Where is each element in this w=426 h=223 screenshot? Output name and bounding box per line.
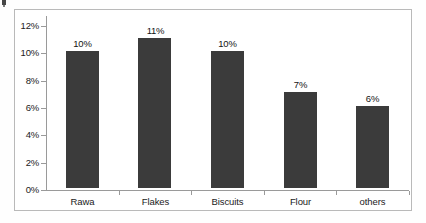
bar-value-label: 7% <box>264 80 337 90</box>
bar-value-label: 10% <box>46 39 119 49</box>
bar-flour <box>284 92 317 188</box>
screenshot-root: 0%2%4%6%8%10%12%10%Rawa11%Flakes10%Biscu… <box>0 0 426 223</box>
x-axis-tick <box>409 191 410 195</box>
bar-value-label: 6% <box>336 94 409 104</box>
y-axis-tick-label: 4% <box>15 130 39 139</box>
y-axis-tick-label: 8% <box>15 76 39 85</box>
x-axis-category-label: Rawa <box>46 196 119 207</box>
y-axis-tick-label: 10% <box>15 48 39 57</box>
bar-rawa <box>66 51 99 188</box>
x-axis-tick <box>336 191 337 195</box>
bar-flakes <box>138 38 171 188</box>
y-axis-tick-label: 6% <box>15 103 39 112</box>
y-axis-tick-label: 0% <box>15 185 39 194</box>
scan-artifact-speck-secondary <box>3 5 5 7</box>
bar-value-label: 10% <box>191 39 264 49</box>
y-axis-tick <box>41 135 46 136</box>
y-axis-tick <box>41 26 46 27</box>
y-axis-tick <box>41 53 46 54</box>
chart-frame: 0%2%4%6%8%10%12%10%Rawa11%Flakes10%Biscu… <box>14 9 412 211</box>
x-axis-category-label: Flour <box>264 196 337 207</box>
x-axis-category-label: Flakes <box>119 196 192 207</box>
y-axis-tick <box>41 81 46 82</box>
bar-value-label: 11% <box>119 26 192 36</box>
y-axis-tick-label: 12% <box>15 21 39 30</box>
plot-area: 0%2%4%6%8%10%12%10%Rawa11%Flakes10%Biscu… <box>15 10 411 210</box>
bar-biscuits <box>211 51 244 188</box>
y-axis-tick <box>41 190 46 191</box>
x-axis-tick <box>264 191 265 195</box>
bar-others <box>356 106 389 188</box>
y-axis-tick-label: 2% <box>15 158 39 167</box>
x-axis-line <box>46 190 409 191</box>
x-axis-tick <box>119 191 120 195</box>
x-axis-category-label: Biscuits <box>191 196 264 207</box>
y-axis-tick <box>41 108 46 109</box>
x-axis-category-label: others <box>336 196 409 207</box>
x-axis-tick <box>191 191 192 195</box>
y-axis-tick <box>41 163 46 164</box>
